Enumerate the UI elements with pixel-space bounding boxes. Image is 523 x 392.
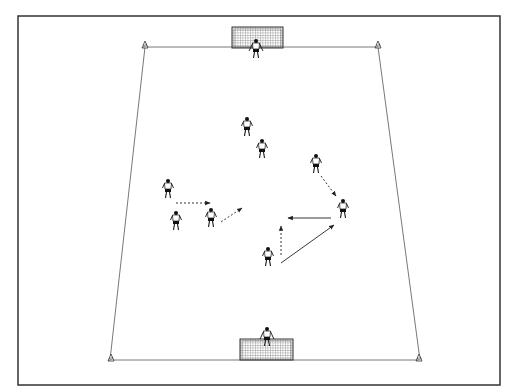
drill-diagram <box>0 0 523 392</box>
frame-border <box>18 16 500 385</box>
bottom-goal <box>240 339 293 360</box>
drill-canvas <box>0 0 523 392</box>
